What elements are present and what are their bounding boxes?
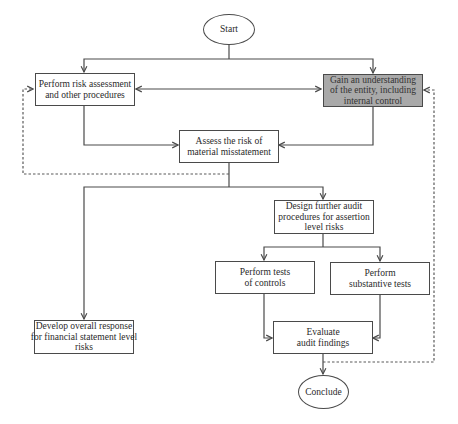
start-label: Start	[220, 24, 238, 35]
understand-entity-box: Gain an understanding of the entity, inc…	[323, 74, 423, 107]
conclude-label: Conclude	[305, 387, 341, 398]
edge-substantive-tests-to-evaluate	[373, 294, 380, 338]
risk-assessment-box: Perform risk assessment and other proced…	[35, 73, 135, 106]
start-node: Start	[203, 14, 255, 45]
substantive-tests-box: Perform substantive tests	[330, 262, 430, 295]
understand-entity-label-line3: internal control	[330, 96, 416, 107]
assess-risk-label-line1: Assess the risk of	[187, 136, 271, 147]
flowchart-connectors	[0, 0, 458, 424]
design-procedures-label-line2: procedures for assertion	[278, 212, 369, 223]
design-procedures-box: Design further audit procedures for asse…	[274, 200, 374, 234]
assess-risk-label-line2: material misstatement	[187, 147, 271, 158]
evaluate-findings-box: Evaluate audit findings	[273, 321, 373, 354]
tests-of-controls-label-line1: Perform tests	[240, 267, 290, 278]
understand-entity-label-line2: of the entity, including	[330, 85, 416, 96]
risk-assessment-label-line1: Perform risk assessment	[39, 79, 131, 90]
edge-assess-risk-to-design-procedures	[229, 187, 323, 199]
edge-start-to-risk-assessment	[84, 59, 229, 72]
conclude-node: Conclude	[298, 375, 349, 409]
edge-design-to-substantive-tests	[323, 247, 380, 261]
risk-assessment-label-line2: and other procedures	[39, 90, 131, 101]
edge-start-to-understand-entity	[229, 59, 373, 73]
substantive-tests-label-line2: substantive tests	[349, 279, 411, 290]
edge-understand-entity-to-assess-risk	[279, 106, 373, 145]
design-procedures-label-line3: level risks	[278, 222, 369, 233]
edge-tests-of-controls-to-evaluate	[264, 294, 272, 338]
tests-of-controls-box: Perform tests of controls	[215, 261, 315, 294]
overall-response-label-line3: risks	[31, 342, 137, 353]
overall-response-box: Develop overall response for financial s…	[34, 320, 134, 354]
assess-risk-box: Assess the risk of material misstatement	[179, 130, 279, 163]
edge-risk-assessment-to-assess-risk	[84, 106, 178, 145]
edge-assess-risk-to-overall-response	[84, 187, 229, 319]
substantive-tests-label-line1: Perform	[349, 268, 411, 279]
edge-design-to-tests-of-controls	[264, 247, 323, 260]
design-procedures-label-line1: Design further audit	[278, 201, 369, 212]
overall-response-label-line1: Develop overall response	[31, 321, 137, 332]
evaluate-findings-label-line2: audit findings	[297, 338, 350, 349]
tests-of-controls-label-line2: of controls	[240, 278, 290, 289]
overall-response-label-line2: for financial statement level	[31, 332, 137, 343]
understand-entity-label-line1: Gain an understanding	[330, 75, 416, 86]
evaluate-findings-label-line1: Evaluate	[297, 327, 350, 338]
